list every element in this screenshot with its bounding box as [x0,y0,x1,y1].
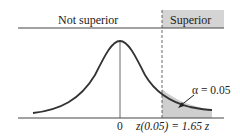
axis-variable-label: z [205,120,209,132]
superior-label: Superior [170,13,211,28]
zero-tick-label: 0 [117,120,123,132]
critical-value-label: z(0.05) = 1.65 z [136,120,209,132]
alpha-label: α = 0.05 [192,84,230,96]
not-superior-label: Not superior [58,13,118,28]
critical-value-text: z(0.05) = 1.65 [136,120,202,132]
